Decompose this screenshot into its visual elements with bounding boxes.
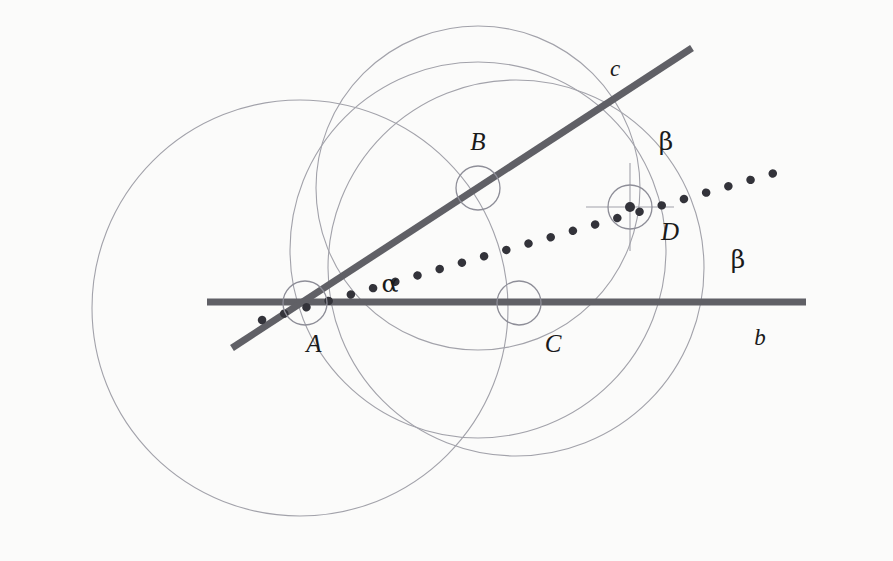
point-dot-d — [625, 202, 635, 212]
geometry-figure: A B C D b c α β β — [0, 0, 893, 561]
label-angle-beta-lower: β — [731, 245, 745, 274]
figure-canvas: A B C D b c α β β — [0, 0, 893, 561]
label-angle-alpha: α — [382, 269, 399, 298]
label-point-d: D — [660, 218, 679, 245]
label-point-b: B — [470, 128, 485, 155]
figure-background — [0, 0, 893, 561]
label-point-a: A — [304, 330, 322, 357]
label-point-c: C — [545, 330, 562, 357]
label-line-c: c — [610, 56, 620, 81]
label-angle-beta-upper: β — [659, 127, 673, 156]
label-line-b: b — [754, 325, 766, 350]
